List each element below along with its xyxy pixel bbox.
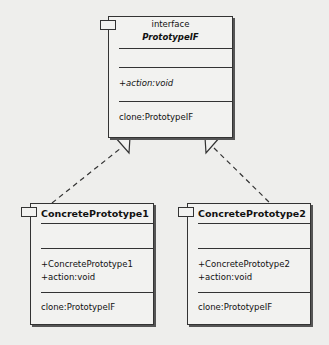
divider (41, 223, 153, 224)
operation: +ConcretePrototype1 (41, 259, 133, 269)
class-name: ConcretePrototype1 (41, 208, 149, 219)
realization-line-2 (214, 148, 270, 203)
class-concreteprototype2[interactable]: ConcretePrototype2 +ConcretePrototype2 +… (187, 203, 311, 325)
class-tab-icon (178, 207, 194, 217)
divider (198, 292, 310, 293)
operation: +action:void (119, 78, 173, 88)
realization-arrowhead-2 (205, 137, 220, 153)
interface-stereotype: interface (109, 19, 232, 29)
interface-name: PrototypeIF (109, 32, 232, 42)
class-concreteprototype1[interactable]: ConcretePrototype1 +ConcretePrototype1 +… (30, 203, 154, 325)
divider (119, 67, 232, 68)
interface-prototypeif[interactable]: interface PrototypeIF +action:void clone… (108, 16, 233, 138)
operation: +action:void (198, 272, 252, 282)
method: clone:PrototypeIF (198, 302, 272, 312)
divider (41, 292, 153, 293)
realization-line-1 (52, 148, 121, 203)
divider (41, 248, 153, 249)
class-tab-icon (100, 20, 116, 30)
class-tab-icon (21, 207, 37, 217)
divider (119, 101, 232, 102)
class-name: ConcretePrototype2 (198, 208, 306, 219)
operation: +ConcretePrototype2 (198, 259, 290, 269)
method: clone:PrototypeIF (119, 112, 193, 122)
method: clone:PrototypeIF (41, 302, 115, 312)
divider (198, 248, 310, 249)
operation: +action:void (41, 272, 95, 282)
divider (198, 223, 310, 224)
divider (119, 48, 232, 49)
